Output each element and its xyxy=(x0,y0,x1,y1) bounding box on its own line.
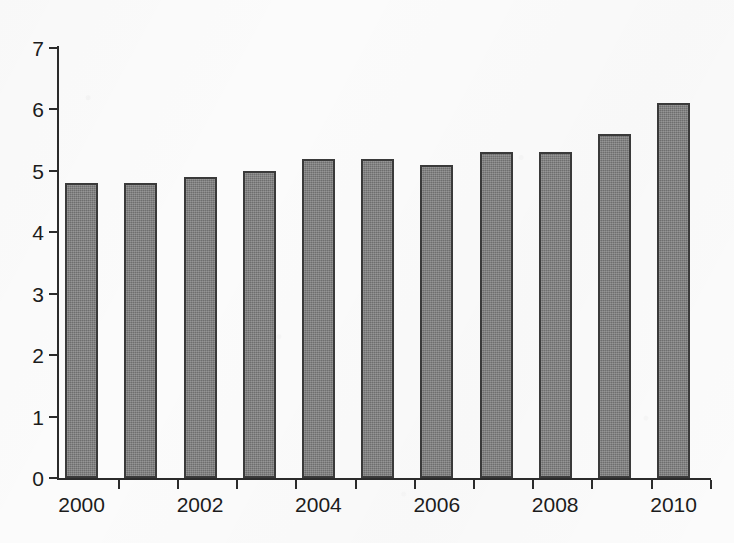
x-tick-mark xyxy=(414,480,416,489)
bar-chart-plot-area: 01234567 200020022004200620082010 xyxy=(0,0,734,543)
y-tick-mark xyxy=(49,293,57,295)
x-tick-label: 2002 xyxy=(145,494,255,515)
bar xyxy=(65,183,98,478)
y-tick-label: 5 xyxy=(4,160,44,181)
y-tick-mark xyxy=(49,231,57,233)
y-tick-mark xyxy=(49,108,57,110)
x-tick-mark xyxy=(355,480,357,489)
y-tick-label: 3 xyxy=(4,283,44,304)
y-tick-label: 2 xyxy=(4,345,44,366)
y-tick-label: 4 xyxy=(4,222,44,243)
x-tick-mark xyxy=(651,480,653,489)
x-tick-mark xyxy=(177,480,179,489)
bar xyxy=(243,171,276,478)
x-tick-mark xyxy=(532,480,534,489)
x-axis-line xyxy=(57,478,711,480)
bar xyxy=(124,183,157,478)
y-tick-mark xyxy=(49,170,57,172)
x-tick-mark xyxy=(710,480,712,489)
bar xyxy=(657,103,690,478)
x-tick-mark xyxy=(236,480,238,489)
x-tick-mark xyxy=(473,480,475,489)
y-axis-line xyxy=(57,46,59,480)
bar xyxy=(420,165,453,478)
x-tick-mark xyxy=(591,480,593,489)
x-tick-mark xyxy=(295,480,297,489)
y-tick-label: 1 xyxy=(4,406,44,427)
y-tick-mark xyxy=(49,47,57,49)
bar xyxy=(361,159,394,478)
y-tick-mark xyxy=(49,354,57,356)
x-tick-label: 2010 xyxy=(619,494,729,515)
x-tick-label: 2008 xyxy=(500,494,610,515)
y-tick-label: 6 xyxy=(4,99,44,120)
x-tick-label: 2000 xyxy=(27,494,137,515)
bar xyxy=(480,152,513,478)
x-tick-label: 2006 xyxy=(382,494,492,515)
chart-figure: 01234567 200020022004200620082010 xyxy=(0,0,734,543)
bar xyxy=(539,152,572,478)
x-tick-mark xyxy=(118,480,120,489)
y-tick-label: 7 xyxy=(4,38,44,59)
y-tick-mark xyxy=(49,477,57,479)
bar xyxy=(302,159,335,478)
bar xyxy=(184,177,217,478)
y-tick-mark xyxy=(49,416,57,418)
y-tick-label: 0 xyxy=(4,468,44,489)
bar xyxy=(598,134,631,478)
x-tick-label: 2004 xyxy=(263,494,373,515)
